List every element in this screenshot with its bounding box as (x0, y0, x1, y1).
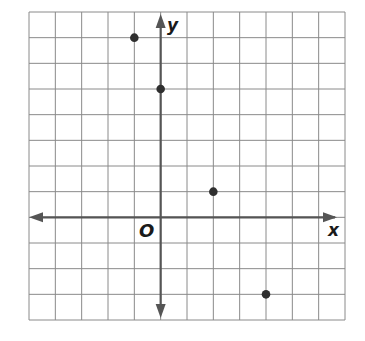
y-axis-arrow-up-icon (156, 14, 166, 28)
data-point (130, 33, 139, 42)
data-point (262, 290, 271, 299)
x-axis-arrow-left-icon (29, 212, 43, 222)
data-point (156, 85, 165, 94)
coordinate-plane (0, 0, 365, 341)
origin-label: O (139, 222, 154, 240)
x-axis-label: x (328, 222, 339, 239)
data-point (209, 187, 218, 196)
y-axis-arrow-down-icon (156, 304, 166, 318)
grid-lines (29, 12, 345, 320)
y-axis-label: y (167, 17, 178, 34)
